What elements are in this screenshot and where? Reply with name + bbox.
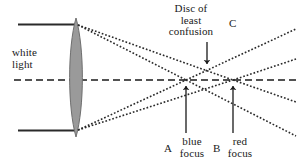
chromatic-aberration-figure: white light Disc of least confusion C A … xyxy=(0,0,300,166)
label-disc-of-least-confusion: Disc of least confusion xyxy=(160,3,222,38)
label-point-a: A xyxy=(164,143,172,155)
red-ray-from-bottom-diverging xyxy=(233,59,296,80)
label-white-light: white light xyxy=(12,47,37,70)
red-ray-from-top-diverging xyxy=(233,80,296,102)
label-red-focus: red focus xyxy=(224,136,256,159)
converging-lens xyxy=(70,18,83,137)
label-point-c: C xyxy=(229,18,236,30)
label-point-b: B xyxy=(213,143,220,155)
label-blue-focus: blue focus xyxy=(175,136,209,159)
red-ray-from-bottom xyxy=(78,80,233,130)
blue-ray-from-bottom xyxy=(78,80,186,130)
blue-ray-from-top-diverging xyxy=(186,80,296,136)
